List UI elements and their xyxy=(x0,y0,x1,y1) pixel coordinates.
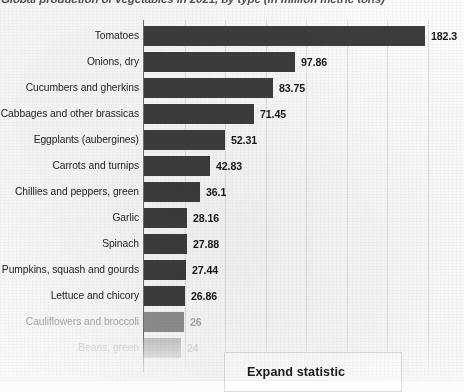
bar-row: Tomatoes182.3 xyxy=(0,23,464,49)
bar-row: Chillies and peppers, green36.1 xyxy=(0,179,464,205)
bar-value-label: 27.88 xyxy=(193,231,219,257)
bar-value-label: 97.86 xyxy=(301,49,327,75)
value-axis-line xyxy=(143,20,144,372)
bar-value-label: 36.1 xyxy=(206,179,226,205)
chart-title-strip: Global production of vegetables in 2021,… xyxy=(0,0,464,9)
bar xyxy=(144,182,200,202)
bar-value-label: 24 xyxy=(187,335,199,361)
bar xyxy=(144,78,273,98)
category-label: Cabbages and other brassicas xyxy=(1,101,139,127)
category-label: Onions, dry xyxy=(87,49,139,75)
bar xyxy=(144,52,295,72)
bar-row: Garlic28.16 xyxy=(0,205,464,231)
expand-statistic-button[interactable]: Expand statistic xyxy=(224,352,402,392)
category-label: Tomatoes xyxy=(95,23,139,49)
expand-statistic-label: Expand statistic xyxy=(247,365,345,379)
bar-row: Cabbages and other brassicas71.45 xyxy=(0,101,464,127)
bar xyxy=(144,286,185,306)
category-label: Lettuce and chicory xyxy=(51,283,139,309)
bar-row: Cauliflowers and broccoli26 xyxy=(0,309,464,335)
bar-row: Lettuce and chicory26.86 xyxy=(0,283,464,309)
bar xyxy=(144,260,186,280)
bar-row: Carrots and turnips42.83 xyxy=(0,153,464,179)
bar xyxy=(144,338,181,358)
bar-value-label: 27.44 xyxy=(192,257,218,283)
category-label: Beans, green xyxy=(78,335,139,361)
bar xyxy=(144,234,187,254)
category-label: Carrots and turnips xyxy=(52,153,139,179)
category-label: Garlic xyxy=(112,205,139,231)
bar-value-label: 26.86 xyxy=(191,283,217,309)
category-label: Pumpkins, squash and gourds xyxy=(2,257,139,283)
bar-value-label: 28.16 xyxy=(193,205,219,231)
bar xyxy=(144,208,187,228)
bar-value-label: 71.45 xyxy=(260,101,286,127)
bar-value-label: 52.31 xyxy=(231,127,257,153)
category-label: Eggplants (aubergines) xyxy=(34,127,139,153)
bar-row: Pumpkins, squash and gourds27.44 xyxy=(0,257,464,283)
bar-value-label: 26 xyxy=(190,309,202,335)
page-title: Global production of vegetables in 2021,… xyxy=(1,0,385,5)
bar-row: Eggplants (aubergines)52.31 xyxy=(0,127,464,153)
category-label: Cucumbers and gherkins xyxy=(26,75,139,101)
bar-value-label: 83.75 xyxy=(279,75,305,101)
bar-value-label: 42.83 xyxy=(216,153,242,179)
bar xyxy=(144,26,425,46)
bar xyxy=(144,312,184,332)
bar-chart-plot-area: Tomatoes182.3Onions, dry97.86Cucumbers a… xyxy=(0,20,464,381)
bar-row: Onions, dry97.86 xyxy=(0,49,464,75)
bar-row: Spinach27.88 xyxy=(0,231,464,257)
bar-row: Cucumbers and gherkins83.75 xyxy=(0,75,464,101)
bar xyxy=(144,104,254,124)
category-label: Spinach xyxy=(102,231,139,257)
category-label: Cauliflowers and broccoli xyxy=(26,309,139,335)
bar xyxy=(144,156,210,176)
bar xyxy=(144,130,225,150)
category-label: Chillies and peppers, green xyxy=(15,179,139,205)
bar-value-label: 182.3 xyxy=(431,23,457,49)
